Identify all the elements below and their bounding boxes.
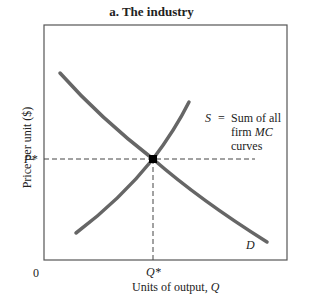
- equilibrium-point: [149, 155, 157, 163]
- supply-desc-2: firm MC: [231, 125, 273, 140]
- demand-curve: [60, 73, 267, 242]
- x-axis-label: Units of output, Q: [132, 280, 219, 295]
- supply-desc-2a: firm: [231, 125, 255, 139]
- supply-desc-2b: MC: [255, 125, 273, 139]
- supply-desc-3: curves: [231, 139, 262, 154]
- y-axis-label: Price per unit ($): [20, 93, 35, 203]
- q-star-label: Q*: [146, 265, 161, 280]
- supply-equals: =: [218, 111, 225, 126]
- p-star-label: P*: [24, 152, 37, 167]
- supply-label: S: [205, 111, 211, 126]
- x-axis-label-text: Units of output,: [132, 280, 211, 294]
- supply-desc-1: Sum of all: [231, 111, 281, 126]
- x-axis-label-var: Q: [211, 280, 220, 294]
- origin-label: 0: [33, 266, 39, 281]
- supply-curve: [76, 102, 189, 233]
- demand-label: D: [246, 238, 255, 253]
